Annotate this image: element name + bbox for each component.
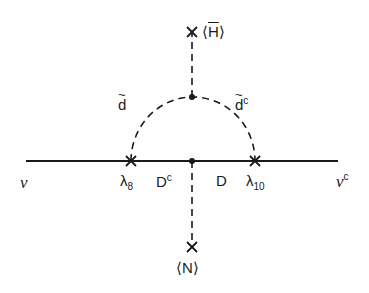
dc-sup: c [167, 172, 172, 183]
top-vertex-dot [189, 94, 195, 100]
neutrino-c-label: νc [336, 172, 349, 190]
higgs-symbol: H [208, 23, 219, 40]
dc-symbol: D [156, 173, 167, 190]
squark-d-symbol: d [118, 97, 126, 112]
feynman-diagram-canvas [0, 0, 369, 293]
squark-dc-label: dc [235, 96, 248, 112]
center-vertex-dot [189, 158, 195, 164]
squark-dc-symbol: d [235, 97, 243, 112]
neutrino-label: ν [20, 174, 28, 191]
lambda8-label: λ8 [120, 173, 133, 192]
squark-d-label: d [118, 97, 126, 112]
angle-close: ⟩ [219, 23, 225, 40]
lambda10-symbol: λ [246, 172, 254, 189]
lambda10-sub: 10 [254, 181, 265, 192]
higgs-vev-label: ⟨H⟩ [202, 24, 225, 39]
d-label: D [216, 173, 227, 188]
n-symbol: N [182, 259, 193, 276]
dc-label: Dc [156, 173, 172, 189]
lambda8-symbol: λ [120, 172, 128, 189]
angle-close: ⟩ [193, 259, 199, 276]
lambda10-label: λ10 [246, 173, 265, 192]
squark-dc-sup: c [243, 95, 248, 106]
neutrino-c-sup: c [344, 171, 349, 182]
n-vev-label: ⟨N⟩ [176, 260, 199, 275]
neutrino-c-symbol: ν [336, 172, 344, 191]
lambda8-sub: 8 [128, 181, 134, 192]
cross-icon-n-vev [187, 242, 197, 252]
